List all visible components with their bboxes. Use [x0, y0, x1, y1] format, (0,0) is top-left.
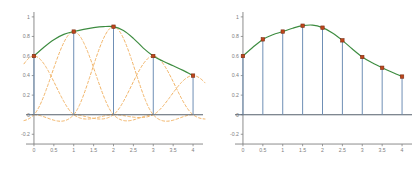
- sample-marker[interactable]: [112, 25, 115, 28]
- x-tick-label: 1: [72, 147, 75, 153]
- right-plot-svg: -0.200.20.40.60.8100.511.522.533.54: [209, 0, 418, 172]
- sample-marker[interactable]: [32, 54, 35, 57]
- x-tick-label: 2: [112, 147, 115, 153]
- sample-marker[interactable]: [281, 30, 284, 33]
- x-tick-label: 3.5: [379, 147, 386, 153]
- left-plot-svg: -0.200.20.40.60.8100.511.522.533.54: [0, 0, 209, 172]
- x-tick-label: 0.5: [259, 147, 266, 153]
- y-tick-label: 0.8: [23, 33, 30, 39]
- x-tick-label: 0.5: [50, 147, 57, 153]
- sample-marker[interactable]: [380, 66, 383, 69]
- y-tick-label: 0.4: [23, 72, 30, 78]
- y-tick-label: 0.2: [232, 92, 239, 98]
- sample-marker[interactable]: [72, 30, 75, 33]
- x-tick-label: 0: [242, 147, 245, 153]
- y-tick-label: 1: [236, 14, 239, 20]
- x-tick-label: 2.5: [339, 147, 346, 153]
- sample-marker[interactable]: [152, 54, 155, 57]
- y-tick-label: -0.2: [230, 131, 239, 137]
- sample-marker[interactable]: [261, 38, 264, 41]
- sample-marker[interactable]: [301, 24, 304, 27]
- axes-group: -0.200.20.40.60.8100.511.522.533.54: [230, 12, 412, 153]
- x-tick-label: 1: [281, 147, 284, 153]
- sample-marker[interactable]: [361, 55, 364, 58]
- x-tick-label: 3: [361, 147, 364, 153]
- y-tick-label: 0.6: [232, 53, 239, 59]
- stems-group: [34, 27, 193, 115]
- y-tick-label: 1: [27, 14, 30, 20]
- sample-marker[interactable]: [321, 26, 324, 29]
- basis-function-curve: [24, 32, 153, 121]
- left-plot-panel: -0.200.20.40.60.8100.511.522.533.54: [0, 0, 209, 172]
- x-tick-label: 2.5: [130, 147, 137, 153]
- x-tick-label: 1.5: [299, 147, 306, 153]
- x-tick-label: 0: [33, 147, 36, 153]
- x-tick-label: 4: [401, 147, 404, 153]
- sample-marker[interactable]: [341, 39, 344, 42]
- stems-group: [243, 26, 402, 115]
- y-tick-label: 0.4: [232, 72, 239, 78]
- x-tick-label: 3: [152, 147, 155, 153]
- y-tick-label: 0.8: [232, 33, 239, 39]
- sample-marker[interactable]: [191, 74, 194, 77]
- sample-marker[interactable]: [400, 75, 403, 78]
- x-tick-label: 4: [192, 147, 195, 153]
- x-tick-label: 3.5: [170, 147, 177, 153]
- y-tick-label: 0.2: [23, 92, 30, 98]
- basis-function-curve: [114, 76, 205, 118]
- sample-marker[interactable]: [241, 54, 244, 57]
- right-plot-panel: -0.200.20.40.60.8100.511.522.533.54: [209, 0, 418, 172]
- axes-group: -0.200.20.40.60.8100.511.522.533.54: [21, 12, 203, 153]
- y-tick-label: -0.2: [21, 131, 30, 137]
- figure-container: -0.200.20.40.60.8100.511.522.533.54 -0.2…: [0, 0, 418, 172]
- x-tick-label: 1.5: [90, 147, 97, 153]
- x-tick-label: 2: [321, 147, 324, 153]
